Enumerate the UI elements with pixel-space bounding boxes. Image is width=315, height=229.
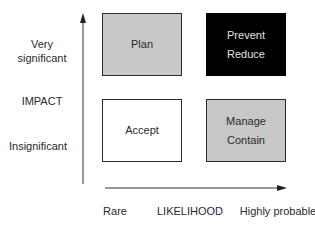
up-arrow-icon (80, 13, 86, 23)
x-axis-title: LIKELIHOOD (150, 204, 230, 218)
y-high-line1: Very (14, 37, 70, 51)
quadrant-text: Prevent (227, 26, 265, 45)
right-arrow-icon (277, 185, 287, 191)
y-high-line2: significant (14, 51, 70, 65)
x-axis-low-label: Rare (90, 204, 140, 218)
quadrant-accept: Accept (102, 99, 182, 162)
y-axis-low-label: Insignificant (4, 139, 72, 153)
quadrant-text: Manage (226, 112, 266, 131)
y-axis-title: IMPACT (10, 94, 74, 108)
quadrant-text: Reduce (227, 45, 265, 64)
quadrant-prevent-reduce: Prevent Reduce (206, 13, 286, 76)
quadrant-text: Contain (227, 131, 265, 150)
quadrant-plan: Plan (102, 13, 182, 76)
quadrant-text: Accept (125, 121, 159, 140)
quadrant-text: Plan (131, 35, 153, 54)
y-axis-high-label: Very significant (14, 37, 70, 65)
x-axis-high-label: Highly probable (238, 204, 315, 218)
quadrant-manage-contain: Manage Contain (206, 99, 286, 162)
